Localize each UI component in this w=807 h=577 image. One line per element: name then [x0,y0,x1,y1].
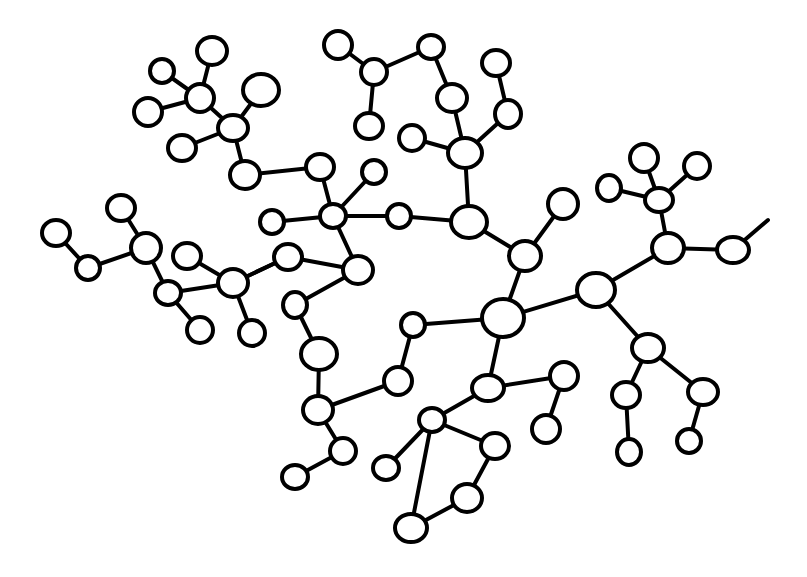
graph-node [399,125,425,151]
graph-node [550,362,578,390]
graph-node [482,50,510,76]
graph-node [495,100,521,128]
graph-node [150,59,174,83]
graph-node [401,313,425,337]
graph-node [239,320,265,346]
graph-node [617,439,641,465]
graph-node [452,484,482,512]
graph-node [481,433,509,459]
graph-node [107,195,135,221]
graph-node [437,84,467,112]
graph-node [652,233,684,263]
graph-nodes [42,31,749,542]
graph-node [361,59,387,85]
graph-node [677,429,701,453]
graph-node [387,204,411,228]
graph-node [717,237,749,263]
graph-node [384,367,412,395]
graph-node [330,438,356,464]
graph-node [418,35,444,59]
graph-node [577,273,615,307]
graph-node [612,382,640,408]
graph-node [532,415,560,443]
graph-node [230,161,260,189]
graph-node [303,396,333,424]
graph-node [448,138,482,168]
graph-node [173,243,201,269]
graph-node [306,154,334,180]
graph-node [76,256,100,280]
graph-node [243,74,279,106]
graph-node [548,189,578,219]
graph-node [343,256,373,284]
network-graph-diagram [0,0,807,577]
graph-node [632,334,664,362]
graph-node [301,338,337,370]
graph-node [274,244,302,270]
graph-node [187,317,213,343]
graph-node [42,220,70,246]
graph-node [155,281,181,305]
graph-node [134,98,162,126]
graph-node [645,188,673,212]
graph-node [218,269,248,297]
graph-node [630,144,658,172]
graph-node [260,210,284,234]
graph-node [419,408,445,432]
graph-node [597,175,621,201]
graph-node [509,241,541,271]
graph-node [451,206,487,238]
graph-node [684,153,710,179]
graph-node [283,292,307,318]
graph-node [373,456,399,480]
graph-canvas [0,0,807,577]
graph-node [197,37,227,65]
graph-node [482,299,524,337]
graph-node [324,31,352,59]
graph-node [282,465,308,489]
graph-node [131,233,161,263]
graph-node [355,113,383,139]
graph-node [320,204,346,228]
graph-node [395,514,427,542]
graph-node [186,84,214,112]
graph-node [688,379,718,405]
graph-node [362,160,386,184]
graph-node [472,375,504,401]
graph-node [168,135,196,161]
graph-node [218,115,248,141]
